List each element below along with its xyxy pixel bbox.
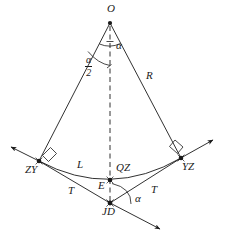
segment-label-r: R [146,70,153,81]
tangent-line-jd-extension [112,204,160,229]
segment-label-t-right: T [151,184,157,195]
point-label-qz: QZ [116,162,130,173]
segment-label-l: L [77,159,83,170]
fraction-numerator: α [85,55,92,66]
point-label-yz: YZ [182,161,194,172]
point-marker-o [108,21,112,25]
tangent-line-left-extension [11,147,41,162]
angle-label-alpha-apex: α [116,40,122,51]
diagram-canvas: O ZY YZ E JD QZ R L T T α α α 2 [0,0,227,245]
curve-arc [39,158,181,179]
angle-arc-alpha-jd [112,184,131,205]
point-label-zy: ZY [25,164,37,175]
angle-label-alpha-over-2: α 2 [85,55,92,78]
radius-line-left [39,23,110,161]
fraction-denominator: 2 [85,68,92,79]
right-angle-marker-yz [170,140,184,154]
point-label-o: O [107,3,115,14]
point-label-jd: JD [102,206,115,217]
tangent-line-right-extension [179,140,213,159]
segment-label-t-left: T [68,185,74,196]
point-label-e: E [98,180,105,191]
angle-label-alpha-jd: α [135,193,141,204]
